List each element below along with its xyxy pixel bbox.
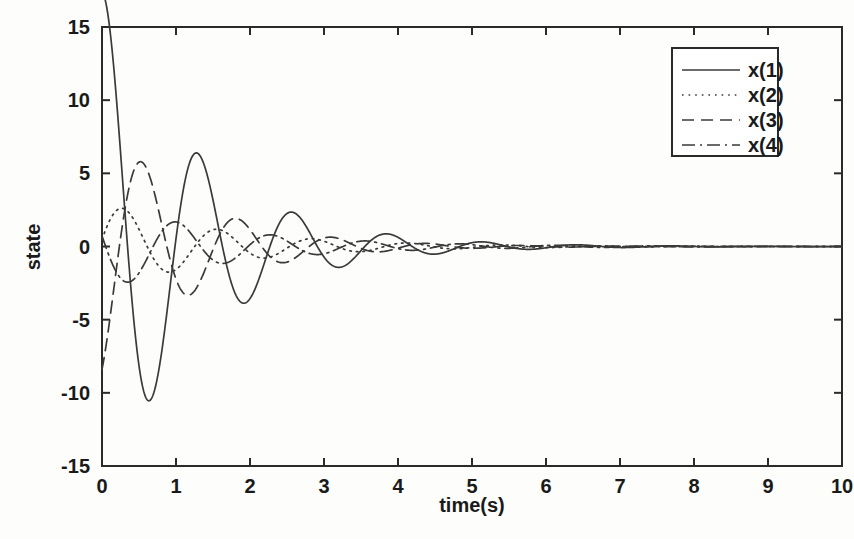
legend-label-x3: x(3)	[748, 109, 784, 131]
x-tick-label: 6	[540, 475, 551, 497]
x-tick-label: 2	[244, 475, 255, 497]
series-line-x4	[102, 222, 842, 282]
series-line-x3	[102, 162, 842, 370]
x-tick-label: 9	[762, 475, 773, 497]
y-tick-label: 0	[79, 236, 90, 258]
y-axis-tick-labels: 151050-5-10-15	[61, 16, 90, 477]
legend-label-x1: x(1)	[748, 59, 784, 81]
x-tick-label: 4	[392, 475, 404, 497]
x-tick-label: 8	[688, 475, 699, 497]
x-tick-label: 0	[96, 475, 107, 497]
y-tick-label: 5	[79, 162, 90, 184]
y-tick-label: -5	[72, 309, 90, 331]
x-tick-label: 7	[614, 475, 625, 497]
series-line-x2	[102, 208, 842, 272]
legend: x(1)x(2)x(3)x(4)	[672, 48, 784, 156]
legend-label-x4: x(4)	[748, 134, 784, 156]
x-tick-label: 10	[831, 475, 853, 497]
x-tick-label: 1	[170, 475, 181, 497]
legend-label-x2: x(2)	[748, 84, 784, 106]
y-axis-title: state	[22, 224, 44, 271]
x-tick-label: 3	[318, 475, 329, 497]
y-tick-label: 10	[68, 89, 90, 111]
figure-canvas: 012345678910 151050-5-10-15 time(s) stat…	[0, 0, 854, 539]
x-axis-title: time(s)	[439, 494, 505, 516]
damped-oscillation-chart: 012345678910 151050-5-10-15 time(s) stat…	[0, 0, 854, 539]
y-tick-label: -15	[61, 455, 90, 477]
y-tick-label: 15	[68, 16, 90, 38]
y-tick-label: -10	[61, 382, 90, 404]
